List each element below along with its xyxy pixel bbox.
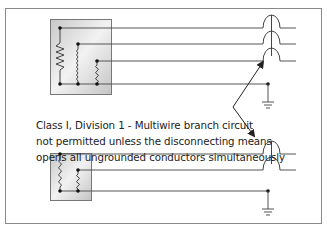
diagram-caption: Class I, Division 1 - Multiwire branch c… (36, 117, 296, 165)
multiwire-circuit-diagram (0, 0, 327, 232)
three-pole-breaker-icon (263, 15, 280, 61)
caption-line-2: not permitted unless the disconnecting m… (36, 133, 296, 149)
ground-icon (262, 191, 274, 215)
caption-line-3: opens all ungrounded conductors simultan… (36, 149, 296, 165)
caption-line-1: Class I, Division 1 - Multiwire branch c… (36, 117, 296, 133)
ground-icon (262, 84, 274, 108)
